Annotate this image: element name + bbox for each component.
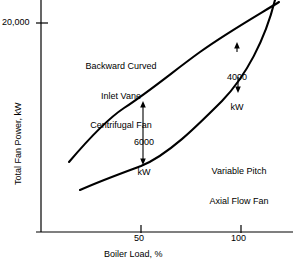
gap-label-4000-unit: kW (221, 103, 253, 113)
x-tick-label-50: 50 (134, 234, 144, 244)
fan-power-chart: Total Fan Power, kW 20,000 50 100 Boiler… (0, 0, 293, 266)
y-tick-label-20000: 20,000 (2, 18, 30, 28)
centrifugal-fan-label-line3: Centrifugal Fan (62, 121, 180, 131)
centrifugal-fan-label-line2: Inlet Vane (62, 92, 180, 102)
gap-label-6000-unit: kW (128, 168, 160, 178)
centrifugal-fan-label: Backward Curved Inlet Vane Centrifugal F… (62, 43, 180, 150)
axial-fan-label-line2: Axial Flow Fan (189, 197, 289, 207)
gap-label-6000: 6000 kW (128, 119, 160, 197)
x-tick-label-100: 100 (231, 234, 246, 244)
axial-fan-label-line1: Variable Pitch (189, 167, 289, 177)
centrifugal-fan-label-line1: Backward Curved (62, 62, 180, 72)
gap-label-4000-value: 4000 (221, 73, 253, 83)
x-axis-title: Boiler Load, % (104, 250, 163, 260)
gap-label-4000: 4000 kW (221, 54, 253, 132)
gap-label-6000-value: 6000 (128, 138, 160, 148)
axial-fan-label: Variable Pitch Axial Flow Fan (189, 148, 289, 226)
y-axis-title: Total Fan Power, kW (14, 102, 24, 185)
